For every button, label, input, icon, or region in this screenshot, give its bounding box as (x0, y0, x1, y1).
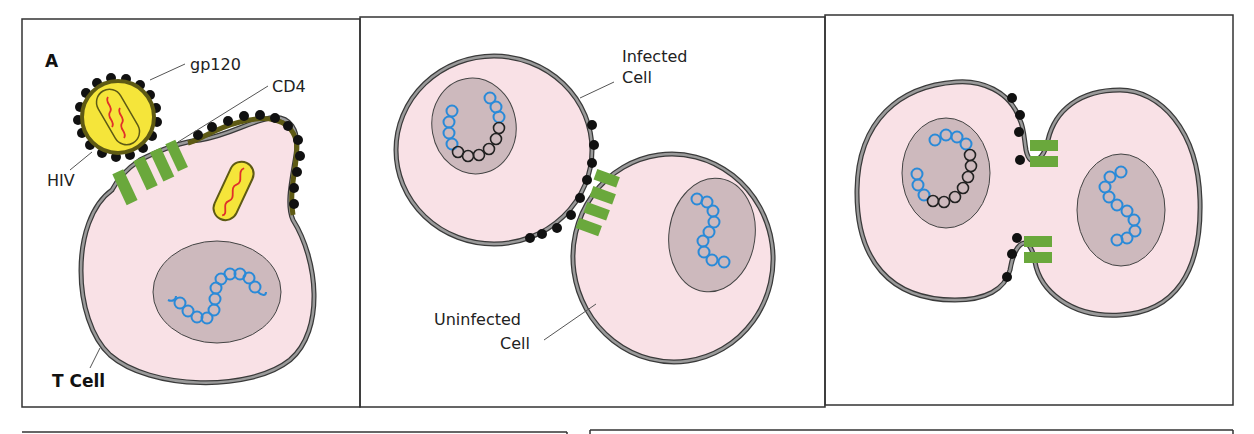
uninfected-cell-label-line1: Uninfected (434, 310, 521, 329)
t-cell-nucleus (153, 241, 281, 343)
panel-a-label: A (45, 51, 59, 71)
hiv-cell-fusion-diagram: A gp120 CD4 HIV T Cell (0, 0, 1254, 434)
panel-b: Infected Cell Uninfected Cell (396, 47, 787, 375)
cd4-label: CD4 (272, 77, 306, 96)
infected-cell-label-line1: Infected (622, 47, 687, 66)
left-nucleus (902, 118, 990, 228)
panel-a: A gp120 CD4 HIV T Cell (45, 51, 314, 391)
uninfected-cell-label-line2: Cell (500, 334, 530, 353)
infected-cell-label-line2: Cell (622, 68, 652, 87)
hiv-virion (73, 73, 162, 162)
hiv-label: HIV (47, 171, 75, 190)
gp120-label: gp120 (190, 55, 241, 74)
t-cell-label: T Cell (52, 371, 105, 391)
panel-c (857, 82, 1200, 315)
